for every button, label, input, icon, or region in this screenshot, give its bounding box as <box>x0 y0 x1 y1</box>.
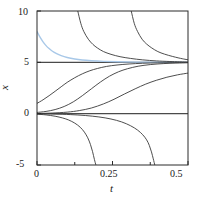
x-tick-label-025: 0.25 <box>100 169 118 179</box>
chart-figure: 10 5 0 -5 0 0.25 0.5 t x <box>0 0 200 200</box>
x-axis-title: t <box>110 183 113 194</box>
x-tick-label-0: 0 <box>34 169 39 179</box>
x-tick-label-05: 0.5 <box>170 169 183 179</box>
y-tick-label-0: 0 <box>24 108 29 118</box>
y-tick-label-minus5: -5 <box>16 159 24 169</box>
y-axis-title: x <box>0 85 10 90</box>
y-tick-label-5: 5 <box>24 57 29 67</box>
y-tick-label-10: 10 <box>18 7 28 17</box>
